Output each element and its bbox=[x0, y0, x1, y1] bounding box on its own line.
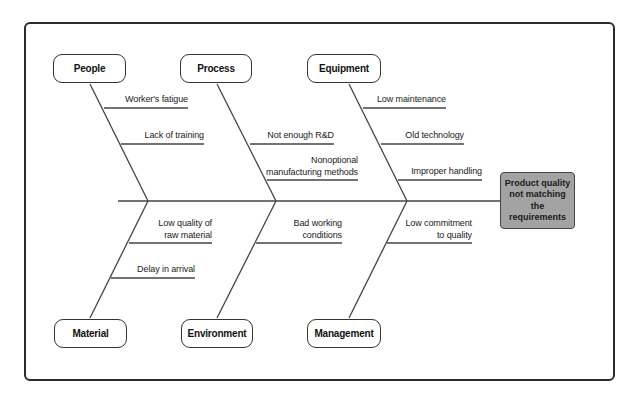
cause-text: manufacturing methods bbox=[266, 167, 358, 179]
cause-old-technology: Old technology bbox=[405, 130, 464, 142]
bone-environment bbox=[217, 201, 276, 318]
category-equipment: Equipment bbox=[307, 54, 381, 83]
category-label: Environment bbox=[188, 328, 247, 339]
effect-text-line: not matching bbox=[501, 189, 574, 201]
cause-bad-working-conditions: Bad working conditions bbox=[294, 218, 342, 241]
cause-lack-of-training: Lack of training bbox=[145, 130, 204, 142]
cause-text: Low maintenance bbox=[377, 94, 446, 104]
cause-nonoptional-methods: Nonoptional manufacturing methods bbox=[266, 155, 358, 178]
category-material: Material bbox=[54, 319, 127, 348]
cause-text: Old technology bbox=[405, 130, 464, 140]
cause-text: Improper handling bbox=[411, 166, 482, 176]
cause-low-quality-raw-material: Low quality of raw material bbox=[158, 218, 212, 241]
category-management: Management bbox=[307, 319, 381, 348]
cause-text: Lack of training bbox=[145, 130, 204, 140]
cause-improper-handling: Improper handling bbox=[411, 166, 482, 178]
effect-text-line: Product quality bbox=[501, 178, 574, 190]
cause-text: conditions bbox=[294, 230, 342, 242]
bone-material bbox=[90, 201, 148, 318]
cause-not-enough-rd: Not enough R&D bbox=[267, 130, 334, 142]
cause-delay-in-arrival: Delay in arrival bbox=[137, 264, 195, 276]
bone-management bbox=[349, 201, 407, 318]
bone-process bbox=[217, 84, 276, 201]
category-process: Process bbox=[180, 54, 252, 83]
cause-low-commitment: Low commitment to quality bbox=[405, 218, 472, 241]
cause-text: Worker's fatigue bbox=[125, 94, 188, 104]
cause-text: Delay in arrival bbox=[137, 264, 195, 274]
cause-text: to quality bbox=[405, 230, 472, 242]
category-environment: Environment bbox=[181, 319, 253, 348]
cause-text: Nonoptional bbox=[266, 155, 358, 167]
cause-text: raw material bbox=[158, 230, 212, 242]
category-label: Material bbox=[72, 328, 108, 339]
category-label: Process bbox=[197, 63, 235, 74]
category-label: Equipment bbox=[319, 63, 369, 74]
category-label: People bbox=[74, 63, 106, 74]
category-label: Management bbox=[314, 328, 373, 339]
cause-text: Low commitment bbox=[405, 218, 472, 230]
cause-text: Not enough R&D bbox=[267, 130, 334, 140]
cause-low-maintenance: Low maintenance bbox=[377, 94, 446, 106]
cause-workers-fatigue: Worker's fatigue bbox=[125, 94, 188, 106]
effect-text-line: the requirements bbox=[501, 201, 574, 224]
cause-text: Bad working bbox=[294, 218, 342, 230]
effect-box: Product quality not matching the require… bbox=[500, 172, 575, 229]
cause-text: Low quality of bbox=[158, 218, 212, 230]
category-people: People bbox=[53, 54, 126, 83]
